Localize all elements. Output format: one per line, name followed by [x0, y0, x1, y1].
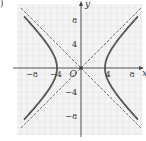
x-tick-label: −8 — [26, 70, 38, 79]
y-tick-label: 8 — [72, 16, 77, 25]
x-tick-label: 4 — [105, 70, 110, 79]
y-axis-label: y — [84, 0, 91, 9]
origin-label: O — [70, 69, 78, 79]
y-tick-label: 4 — [72, 40, 77, 49]
x-axis-label: x — [142, 68, 146, 78]
x-tick-label: −4 — [50, 70, 62, 79]
y-axis-arrow-icon — [79, 1, 83, 6]
y-tick-label: −4 — [65, 88, 77, 97]
x-tick-label: 8 — [129, 70, 134, 79]
y-tick-label: −8 — [65, 112, 77, 121]
hyperbola-figure: ) −8−44884−4−8Oxy — [0, 0, 146, 141]
plot-area: −8−44884−4−8Oxy — [0, 0, 146, 141]
